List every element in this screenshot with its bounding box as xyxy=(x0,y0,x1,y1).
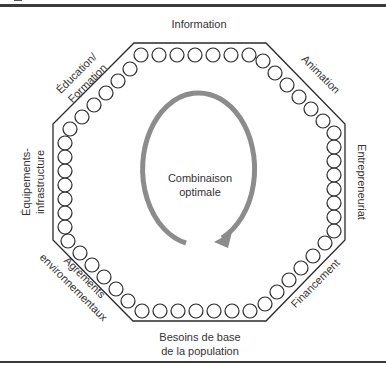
side-label-besoins-line2: de la population xyxy=(161,345,239,357)
ring-circle xyxy=(99,86,113,100)
ring-circle xyxy=(135,304,149,318)
ring-circle xyxy=(206,48,220,62)
ring-circle xyxy=(316,114,330,128)
ring-circle xyxy=(188,48,202,62)
center-label-line2: optimale xyxy=(179,186,221,198)
side-label-entrepreneuriat: Entrepreneuriat xyxy=(356,144,368,220)
side-label-equipements-line2: infrastructure xyxy=(34,150,46,214)
ring-circle xyxy=(327,140,341,154)
ring-circle xyxy=(327,210,341,224)
ring-circle xyxy=(153,304,167,318)
ring-circle xyxy=(327,154,341,168)
octagon-diagram: Combinaison optimale Information Animati… xyxy=(0,0,386,376)
ring-circle xyxy=(152,48,166,62)
ring-circle xyxy=(294,261,308,275)
ring-circle xyxy=(224,48,238,62)
ring-circle xyxy=(258,297,272,311)
ring-circle xyxy=(58,206,72,220)
ring-circle xyxy=(268,66,282,80)
ring-circle xyxy=(256,54,270,68)
ring-circle xyxy=(327,168,341,182)
cycle-arrow xyxy=(143,93,255,243)
ring-circle xyxy=(58,136,72,150)
ring-circle xyxy=(327,126,341,140)
ring-circle xyxy=(327,224,341,238)
ring-circle xyxy=(242,48,256,62)
ring-circle xyxy=(270,285,284,299)
ring-circle xyxy=(189,304,203,318)
ring-circle xyxy=(58,150,72,164)
side-label-besoins-line1: Besoins de base xyxy=(159,331,240,343)
ring-circle xyxy=(58,164,72,178)
ring-circle xyxy=(304,102,318,116)
side-label-financement: Financement xyxy=(288,256,341,309)
ring-circle xyxy=(87,98,101,112)
ring-circle xyxy=(243,304,257,318)
ring-circle xyxy=(58,178,72,192)
ring-circle xyxy=(121,294,135,308)
ring-circle xyxy=(170,48,184,62)
side-label-animation: Animation xyxy=(299,53,342,96)
ring-circle xyxy=(58,220,72,234)
side-label-equipements-line1: Équipements- xyxy=(20,148,32,216)
ring-circle xyxy=(225,304,239,318)
ring-circle xyxy=(111,74,125,88)
ring-circle xyxy=(171,304,185,318)
ring-circle xyxy=(109,282,123,296)
ring-circle xyxy=(75,110,89,124)
ring-circle xyxy=(327,196,341,210)
ring-circle xyxy=(327,182,341,196)
side-label-information: Information xyxy=(171,18,226,30)
ring-circle xyxy=(134,48,148,62)
ring-circle xyxy=(63,122,77,136)
ring-circle xyxy=(318,236,332,250)
center-label-line1: Combinaison xyxy=(168,172,232,184)
ring-circle xyxy=(61,234,75,248)
ring-circle xyxy=(58,192,72,206)
ring-circle xyxy=(282,273,296,287)
ring-circle xyxy=(207,304,221,318)
ring-circle xyxy=(280,78,294,92)
ring-circle xyxy=(292,90,306,104)
ring-circle xyxy=(306,249,320,263)
ring-circle xyxy=(123,62,137,76)
